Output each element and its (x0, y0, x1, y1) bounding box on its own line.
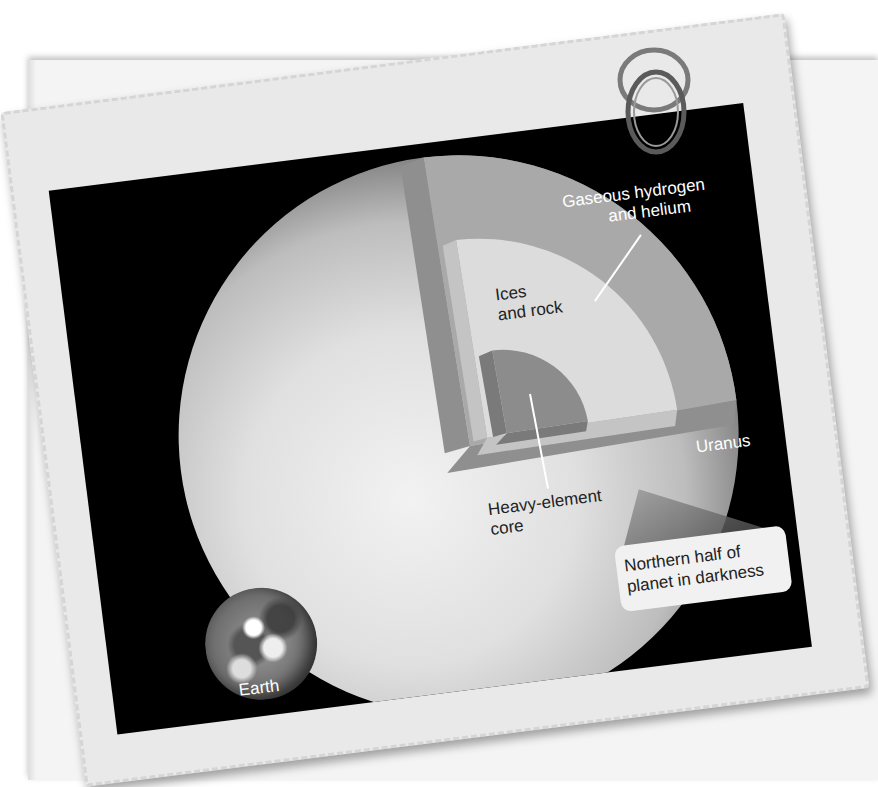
photo-card: Gaseous hydrogen and helium Ices and roc… (1, 13, 870, 787)
diagram-panel: Gaseous hydrogen and helium Ices and roc… (49, 103, 812, 734)
paperclip-icon (596, 40, 716, 170)
callout-pointer (49, 103, 812, 734)
